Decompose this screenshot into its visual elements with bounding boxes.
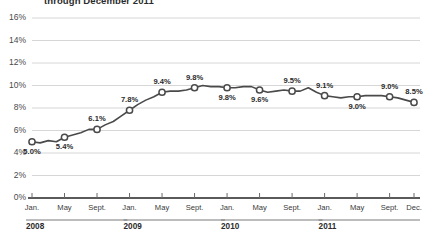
year-label: 2010: [221, 222, 239, 231]
data-point-value-label: 5.4%: [50, 142, 80, 151]
x-axis-tick-label: May: [244, 203, 276, 212]
y-axis-tick-label: 16%: [0, 12, 26, 22]
y-axis-tick-label: 0%: [0, 192, 26, 202]
data-point-marker: [126, 107, 132, 113]
data-point-value-label: 9.8%: [212, 93, 242, 102]
x-axis-tick-label: May: [146, 203, 178, 212]
x-axis-tick-label: May: [341, 203, 373, 212]
data-point-marker: [411, 99, 417, 105]
data-point-value-label: 8.5%: [399, 87, 428, 96]
x-axis-tick-label: Sept.: [179, 203, 211, 212]
year-label: 2008: [26, 222, 44, 231]
data-point-value-label: 6.1%: [82, 114, 112, 123]
data-point-value-label: 9.0%: [342, 102, 372, 111]
y-axis-tick-label: 10%: [0, 80, 26, 90]
data-point-marker: [29, 139, 35, 145]
data-point-value-label: 9.1%: [310, 81, 340, 90]
data-point-marker: [321, 93, 327, 99]
y-axis-tick-label: 8%: [0, 102, 26, 112]
data-point-marker: [387, 94, 393, 100]
data-point-value-label: 5.0%: [17, 147, 47, 156]
y-axis-tick-label: 12%: [0, 57, 26, 67]
data-point-marker: [289, 88, 295, 94]
data-point-marker: [256, 87, 262, 93]
data-point-value-label: 9.5%: [277, 76, 307, 85]
unemployment-rate-line-chart: through December 2011 0%2%4%6%8%10%12%14…: [0, 0, 428, 244]
y-axis-tick-label: 6%: [0, 125, 26, 135]
year-label: 2011: [319, 222, 337, 231]
x-axis-tick-label: Jan.: [16, 203, 48, 212]
x-axis-tick-label: Sept.: [81, 203, 113, 212]
data-point-marker: [61, 134, 67, 140]
y-axis-tick-label: 2%: [0, 170, 26, 180]
x-axis-tick-label: Jan.: [309, 203, 341, 212]
x-axis-tick-label: Sept.: [276, 203, 308, 212]
data-point-value-label: 9.8%: [180, 73, 210, 82]
x-axis-tick-label: Jan.: [114, 203, 146, 212]
data-point-value-label: 9.4%: [147, 77, 177, 86]
x-axis-tick-label: Dec.: [398, 203, 428, 212]
year-label: 2009: [124, 222, 142, 231]
x-axis-tick-label: May: [49, 203, 81, 212]
data-point-marker: [94, 126, 100, 132]
data-point-marker: [159, 89, 165, 95]
y-axis-tick-label: 14%: [0, 35, 26, 45]
x-axis-tick-label: Jan.: [211, 203, 243, 212]
data-point-marker: [224, 85, 230, 91]
data-point-marker: [354, 94, 360, 100]
data-point-value-label: 7.8%: [115, 95, 145, 104]
data-point-value-label: 9.6%: [245, 95, 275, 104]
data-point-marker: [191, 85, 197, 91]
